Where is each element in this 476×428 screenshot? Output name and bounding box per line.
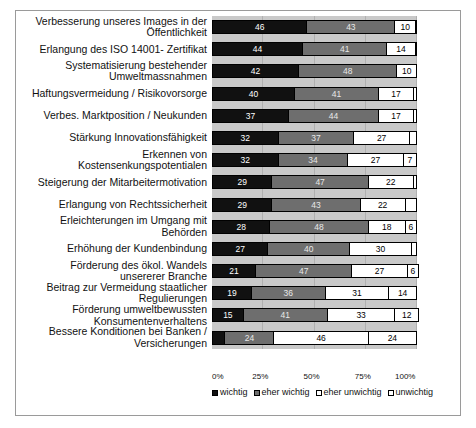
bar-segment: 47: [271, 175, 367, 189]
bar-segment: 43: [271, 198, 359, 212]
bar-segment: 30: [349, 242, 411, 256]
stacked-bar: 404117: [212, 87, 417, 101]
segment-value: 29: [237, 200, 246, 210]
chart-row: Erlangung von Rechtssicherheit294322: [16, 194, 460, 216]
segment-value: 41: [340, 44, 349, 54]
segment-value: 24: [388, 333, 397, 343]
stacked-bar-chart: Verbesserung unseres Images in der Öffen…: [16, 11, 460, 415]
bar-segment: 29: [212, 175, 271, 189]
bar-segment: 34: [278, 153, 348, 167]
stacked-bar: 274030: [212, 242, 417, 256]
bar-segment: 32: [212, 153, 278, 167]
legend-label: unwichtig: [396, 387, 434, 397]
bar-segment: 48: [269, 220, 367, 234]
x-tick-label: 100%: [395, 372, 415, 381]
bar-track: 274030: [212, 238, 417, 260]
bar-segment: 24: [224, 331, 273, 345]
segment-value: 48: [314, 222, 323, 232]
x-tick-label: 75%: [355, 372, 371, 381]
bar-segment: [413, 175, 417, 189]
legend-item: eher unwichtig: [316, 387, 382, 397]
segment-value: 29: [237, 177, 246, 187]
chart-row: Förderung des ökol. Wandels unsererer Br…: [16, 260, 460, 282]
segment-value: 30: [376, 244, 385, 254]
segment-value: 46: [316, 333, 325, 343]
segment-value: 33: [356, 310, 365, 320]
bar-segment: 10: [394, 20, 415, 34]
bar-segment: [405, 198, 417, 212]
bar-track: 244624: [212, 327, 417, 349]
category-label: Erkennen von Kostensenkungspotentialen: [16, 149, 212, 172]
bar-segment: 18: [368, 220, 405, 234]
segment-value: 18: [382, 222, 391, 232]
legend-item: eher wichtig: [254, 387, 310, 397]
bar-track: 2848186: [212, 216, 417, 238]
bar-segment: 41: [243, 308, 327, 322]
bar-segment: [212, 331, 224, 345]
bar-segment: 36: [251, 286, 325, 300]
category-label: Stärkung Innovationsfähigkeit: [16, 132, 212, 144]
bar-segment: 6: [407, 264, 419, 278]
chart-row: Beitrag zur Vermeidung staatlicher Regul…: [16, 282, 460, 304]
stacked-bar: 464310: [212, 20, 417, 34]
segment-value: 42: [251, 66, 260, 76]
segment-value: 27: [371, 155, 380, 165]
segment-value: 47: [315, 177, 324, 187]
bar-segment: 46: [273, 331, 367, 345]
segment-value: 6: [408, 222, 413, 232]
segment-value: 14: [396, 44, 405, 54]
bar-segment: 27: [353, 131, 408, 145]
chart-row: Erhöhung der Kundenbindung274030: [16, 238, 460, 260]
stacked-bar: 19363114: [212, 286, 417, 300]
chart-row: Erkennen von Kostensenkungspotentialen32…: [16, 149, 460, 171]
bar-track: 294322: [212, 194, 417, 216]
category-label: Erlangung von Rechtssicherheit: [16, 199, 212, 211]
segment-value: 27: [235, 244, 244, 254]
segment-value: 6: [411, 266, 416, 276]
bar-track: 19363114: [212, 282, 417, 304]
legend-swatch-3: [388, 390, 394, 396]
bar-segment: 22: [368, 175, 413, 189]
x-tick-label: 25%: [252, 372, 268, 381]
bar-segment: 24: [368, 331, 417, 345]
bar-segment: 15: [212, 308, 243, 322]
chart-row: Steigerung der Mitarbeitermotivation2947…: [16, 171, 460, 193]
x-tick-label: 50%: [304, 372, 320, 381]
legend-label: eher wichtig: [262, 387, 310, 397]
bar-segment: [413, 109, 417, 123]
segment-value: 27: [377, 133, 386, 143]
bar-segment: 12: [394, 308, 419, 322]
segment-value: 22: [378, 200, 387, 210]
segment-value: 24: [245, 333, 254, 343]
segment-value: 19: [227, 288, 236, 298]
bar-track: 464310: [212, 16, 417, 38]
bar-track: 2147276: [212, 260, 417, 282]
legend-swatch-2: [316, 390, 322, 396]
bar-track: 15413312: [212, 304, 417, 326]
segment-value: 32: [241, 155, 250, 165]
bar-segment: 48: [298, 64, 396, 78]
segment-value: 27: [375, 266, 384, 276]
x-axis: 0%25%50%75%100%: [212, 372, 417, 386]
category-label: Beitrag zur Vermeidung staatlicher Regul…: [16, 282, 212, 305]
category-label: Förderung umweltbewussten Konsumentenver…: [16, 304, 212, 327]
bar-track: 323727: [212, 127, 417, 149]
segment-value: 43: [311, 200, 320, 210]
bar-segment: 46: [212, 20, 306, 34]
segment-value: 7: [407, 155, 412, 165]
bar-segment: 27: [351, 264, 406, 278]
legend-swatch-1: [254, 390, 260, 396]
segment-value: 47: [299, 266, 308, 276]
segment-value: 28: [236, 222, 245, 232]
stacked-bar: 424810: [212, 64, 417, 78]
segment-value: 44: [253, 44, 262, 54]
segment-value: 14: [398, 288, 407, 298]
stacked-bar: 444114: [212, 42, 417, 56]
stacked-bar: 2147276: [212, 264, 419, 278]
segment-value: 46: [255, 22, 264, 32]
bar-segment: 10: [396, 64, 417, 78]
bar-segment: 43: [306, 20, 394, 34]
segment-value: 48: [343, 66, 352, 76]
x-tick-label: 0%: [212, 372, 224, 381]
category-label: Haftungsvermeidung / Risikovorsorge: [16, 88, 212, 100]
